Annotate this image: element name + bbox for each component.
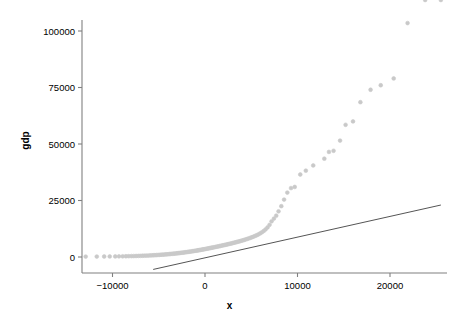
data-point bbox=[102, 255, 106, 259]
data-point bbox=[289, 186, 293, 190]
data-point bbox=[327, 150, 331, 154]
data-point bbox=[344, 123, 348, 127]
x-tick-label: 0 bbox=[202, 280, 207, 291]
data-point bbox=[338, 139, 342, 143]
data-point bbox=[108, 255, 112, 259]
data-point bbox=[322, 157, 326, 161]
x-tick-label: 10000 bbox=[284, 280, 310, 291]
y-tick-label: 50000 bbox=[49, 139, 75, 150]
data-point bbox=[406, 21, 410, 25]
y-tick-label: 100000 bbox=[43, 26, 75, 37]
tick-labels-group: 0250005000075000100000−1000001000020000 bbox=[43, 26, 403, 292]
data-point bbox=[304, 169, 308, 173]
y-tick-label: 75000 bbox=[49, 82, 75, 93]
scatter-points bbox=[84, 0, 443, 258]
data-point bbox=[282, 198, 286, 202]
plot-canvas: 0250005000075000100000−1000001000020000 bbox=[0, 0, 459, 320]
axes-group bbox=[82, 20, 447, 273]
y-tick-label: 0 bbox=[70, 252, 75, 263]
data-point bbox=[298, 173, 302, 177]
data-point bbox=[311, 164, 315, 168]
data-point bbox=[332, 149, 336, 153]
data-point bbox=[279, 204, 283, 208]
reference-line bbox=[153, 205, 441, 269]
data-point bbox=[351, 120, 355, 124]
reference-line-path bbox=[153, 205, 441, 269]
x-tick-label: 20000 bbox=[377, 280, 403, 291]
data-point bbox=[423, 0, 427, 2]
data-point bbox=[113, 255, 117, 259]
data-point bbox=[285, 191, 289, 195]
data-point bbox=[84, 255, 88, 259]
data-point bbox=[274, 214, 278, 218]
data-point bbox=[359, 100, 363, 104]
data-point bbox=[392, 77, 396, 81]
x-axis-title: x bbox=[0, 300, 459, 311]
tick-marks-group bbox=[78, 31, 390, 277]
data-point bbox=[117, 254, 121, 258]
data-point bbox=[95, 255, 99, 259]
data-point bbox=[439, 0, 443, 2]
data-point bbox=[268, 223, 272, 227]
y-axis-title: gdp bbox=[20, 126, 31, 156]
qq-plot-chart: 0250005000075000100000−1000001000020000 … bbox=[0, 0, 459, 320]
x-tick-label: −10000 bbox=[97, 280, 129, 291]
data-point bbox=[293, 185, 297, 189]
data-point bbox=[379, 83, 383, 87]
data-point bbox=[277, 209, 281, 213]
y-tick-label: 25000 bbox=[49, 195, 75, 206]
data-point bbox=[369, 88, 373, 92]
